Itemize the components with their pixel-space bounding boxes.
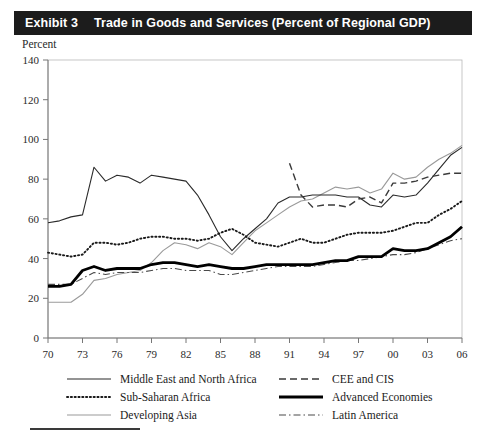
y-tick-label: 20 [28,292,40,304]
legend-line-swatch [278,391,324,403]
series-line [48,227,462,287]
x-tick-label: 94 [319,348,331,360]
x-tick-label: 85 [215,348,227,360]
legend-line-swatch [66,391,112,403]
series-line [290,163,463,207]
legend-item-label: Sub-Saharan Africa [120,391,210,403]
x-tick-label: 97 [353,348,365,360]
y-tick-label: 60 [28,213,40,225]
legend-item: Middle East and North Africa [66,370,278,388]
x-tick-label: 73 [77,348,89,360]
y-tick-label: 80 [28,173,40,185]
legend-line-swatch [66,409,112,421]
chart-legend: Middle East and North AfricaCEE and CISS… [66,370,466,424]
x-tick-label: 03 [422,348,434,360]
legend-item-label: Middle East and North Africa [120,373,257,385]
legend-item: Advanced Economies [278,388,466,406]
legend-item: CEE and CIS [278,370,466,388]
chart-series-lines [48,145,462,302]
y-tick-label: 120 [23,94,40,106]
y-tick-label: 140 [23,54,40,66]
x-tick-label: 82 [181,348,192,360]
legend-line-swatch [278,373,324,385]
x-tick-label: 76 [112,348,124,360]
legend-item: Sub-Saharan Africa [66,388,278,406]
legend-item: Developing Asia [66,406,278,424]
y-axis-ticks: 020406080100120140 [23,54,49,344]
footer-rule [30,428,140,430]
y-tick-label: 100 [23,133,40,145]
legend-line-swatch [278,409,324,421]
legend-item-label: Latin America [332,409,398,421]
x-tick-label: 06 [457,348,469,360]
chart-axes [48,60,462,338]
y-tick-label: 40 [28,253,40,265]
x-tick-label: 91 [284,348,295,360]
legend-item: Latin America [278,406,466,424]
series-line [48,239,462,285]
series-line [48,147,462,250]
legend-item-label: Developing Asia [120,409,197,421]
x-tick-label: 70 [43,348,55,360]
line-chart: 020406080100120140 707376798285889194970… [0,0,490,375]
legend-line-swatch [66,373,112,385]
legend-item-label: CEE and CIS [332,373,394,385]
x-tick-label: 88 [250,348,262,360]
series-line [48,145,462,302]
x-axis-ticks: 70737679828588919497000306 [43,338,469,360]
chart-container: 020406080100120140 707376798285889194970… [0,0,490,375]
legend-item-label: Advanced Economies [332,391,433,403]
x-tick-label: 79 [146,348,158,360]
x-tick-label: 00 [388,348,400,360]
y-tick-label: 0 [34,332,40,344]
